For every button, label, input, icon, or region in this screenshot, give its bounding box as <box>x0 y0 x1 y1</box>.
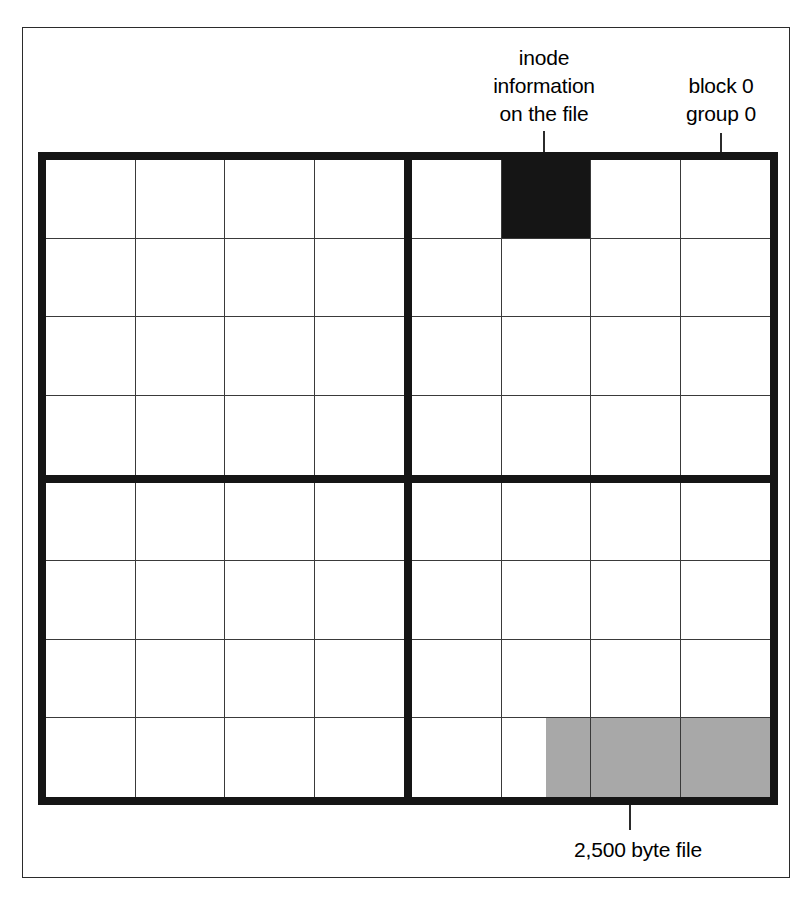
block-cell <box>136 561 226 640</box>
block-cell <box>591 483 681 562</box>
block-cell <box>46 396 136 475</box>
block-cell <box>315 239 405 318</box>
block-cell <box>412 160 502 239</box>
block-cell <box>225 718 315 797</box>
block-cell <box>681 483 771 562</box>
file-size-annotation-label: 2,500 byte file <box>488 836 788 864</box>
block-cell <box>225 640 315 719</box>
block-cell <box>225 483 315 562</box>
block-cell <box>591 317 681 396</box>
block-cell <box>502 483 592 562</box>
block-cell <box>46 718 136 797</box>
block-cell <box>502 396 592 475</box>
block-cell <box>315 396 405 475</box>
block-cell <box>412 239 502 318</box>
block-cell <box>136 239 226 318</box>
block-cell <box>46 561 136 640</box>
block-cell <box>591 396 681 475</box>
block-cell <box>315 561 405 640</box>
block-cell <box>412 561 502 640</box>
block-cell <box>681 640 771 719</box>
block-group-top-right <box>412 160 770 475</box>
block-cell <box>46 239 136 318</box>
block-cell <box>412 718 502 797</box>
block-cell <box>412 640 502 719</box>
block-cell <box>315 483 405 562</box>
block-cell <box>225 239 315 318</box>
block-grid <box>38 152 778 805</box>
block-cell <box>681 396 771 475</box>
block-cell <box>315 640 405 719</box>
block-cell <box>412 396 502 475</box>
block-cell <box>136 718 226 797</box>
block-cell <box>502 718 592 797</box>
block-cell <box>225 317 315 396</box>
block-group-bottom-right <box>412 483 770 798</box>
block-cell <box>681 561 771 640</box>
block-cell <box>46 160 136 239</box>
block-cell <box>225 160 315 239</box>
block-cell <box>225 561 315 640</box>
block-cell <box>502 640 592 719</box>
block-group-annotation-label: block 0 group 0 <box>640 72 802 128</box>
block-cell <box>591 561 681 640</box>
block-cell <box>591 239 681 318</box>
block-group-quadrants <box>46 160 770 797</box>
block-cell <box>412 483 502 562</box>
block-cell <box>681 160 771 239</box>
block-cell <box>502 561 592 640</box>
block-group-top-left <box>46 160 404 475</box>
block-cell <box>591 160 681 239</box>
block-cell <box>136 317 226 396</box>
block-cell <box>136 396 226 475</box>
block-cell <box>136 483 226 562</box>
block-cell <box>315 718 405 797</box>
block-cell <box>591 640 681 719</box>
inode-annotation-label: inode information on the file <box>424 44 664 128</box>
block-group-bottom-left <box>46 483 404 798</box>
block-cell <box>502 317 592 396</box>
block-cell <box>315 317 405 396</box>
block-cell <box>46 640 136 719</box>
block-cell <box>225 396 315 475</box>
block-cell <box>681 718 771 797</box>
block-cell <box>136 640 226 719</box>
block-cell <box>681 239 771 318</box>
figure-canvas: inode information on the file block 0 gr… <box>0 0 810 903</box>
block-cell <box>502 160 592 239</box>
block-cell <box>136 160 226 239</box>
block-cell <box>412 317 502 396</box>
block-cell <box>46 317 136 396</box>
block-cell <box>681 317 771 396</box>
block-cell <box>591 718 681 797</box>
block-cell <box>502 239 592 318</box>
block-cell <box>46 483 136 562</box>
block-cell <box>315 160 405 239</box>
